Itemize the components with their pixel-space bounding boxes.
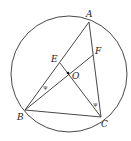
center-point-O — [67, 72, 70, 75]
segment-BC — [25, 110, 101, 117]
label-F: F — [94, 46, 102, 56]
angle-mark-B: ψ — [43, 83, 48, 91]
label-E: E — [50, 54, 58, 64]
label-B: B — [16, 112, 24, 122]
label-C: C — [101, 119, 108, 129]
label-O: O — [72, 71, 80, 81]
geometry-diagram: A B C O E F ψ ψ — [0, 0, 131, 141]
angle-mark-C: ψ — [93, 100, 98, 108]
label-A: A — [85, 9, 93, 19]
